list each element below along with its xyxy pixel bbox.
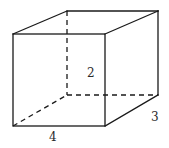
width-label: 4 [49,130,57,144]
hidden-left-depth-edge [13,95,67,126]
front-face [13,34,105,126]
top-right-edge [105,11,158,34]
depth-label: 3 [151,110,159,124]
top-left-edge [13,11,67,34]
prism-diagram: 2 3 4 [0,0,169,148]
height-label: 2 [87,66,95,80]
